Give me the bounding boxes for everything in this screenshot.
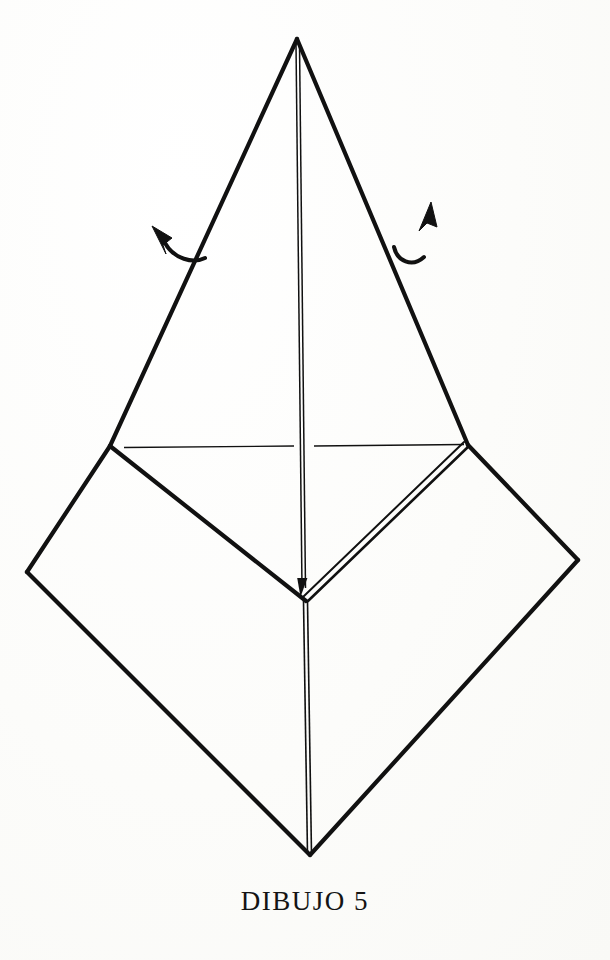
- diamond-lower-left-edge: [27, 572, 310, 855]
- upper-right-edge: [297, 39, 468, 445]
- right-fold-arrow-arc: [394, 247, 424, 262]
- crease-reference-left-segment: [124, 446, 294, 448]
- upper-left-edge: [110, 39, 297, 446]
- right-fold-arrow: [394, 202, 437, 262]
- inner-right-diagonal: [303, 442, 469, 601]
- diamond-lower-right-edge: [310, 560, 578, 855]
- center-spine-lower: [304, 601, 312, 854]
- inner-left-diagonal: [110, 446, 306, 601]
- center-spine-upper: [296, 44, 306, 588]
- diagram-page: DIBUJO 5: [0, 0, 610, 960]
- right-fold-arrowhead-icon: [419, 202, 437, 231]
- diamond-upper-right-edge: [468, 445, 578, 560]
- diamond-upper-left-edge: [27, 446, 110, 572]
- figure-caption: DIBUJO 5: [0, 886, 610, 917]
- horizontal-crease-reference: [124, 445, 464, 448]
- origami-figure: [0, 0, 610, 960]
- crease-reference-right-segment: [314, 445, 464, 447]
